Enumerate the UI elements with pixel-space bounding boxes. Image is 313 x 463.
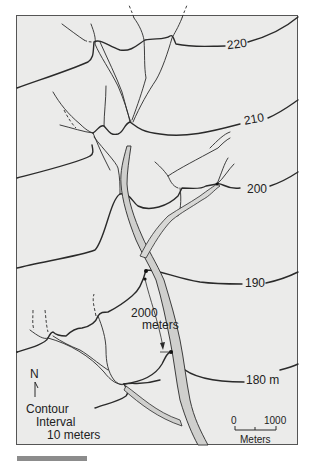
caption-bar xyxy=(17,456,87,461)
main-channel xyxy=(121,146,208,445)
scale-end-label: 1000 xyxy=(264,414,286,427)
north-arrow-icon xyxy=(35,382,38,397)
north-label: N xyxy=(30,368,39,381)
contour-map-svg xyxy=(0,0,313,463)
scale-unit-label: Meters xyxy=(240,433,271,446)
stream xyxy=(62,24,84,40)
distance-label-unit: meters xyxy=(142,319,179,332)
scale-start-label: 0 xyxy=(231,414,237,427)
contour-200 xyxy=(17,145,298,268)
contour-label-200: 200 xyxy=(247,183,267,196)
contour-label-180: 180 m xyxy=(246,374,279,387)
legend-10-meters: 10 meters xyxy=(47,429,100,442)
contour-label-190: 190 xyxy=(245,277,265,290)
contour-label-220: 220 xyxy=(226,37,248,53)
contour-210 xyxy=(93,100,298,135)
